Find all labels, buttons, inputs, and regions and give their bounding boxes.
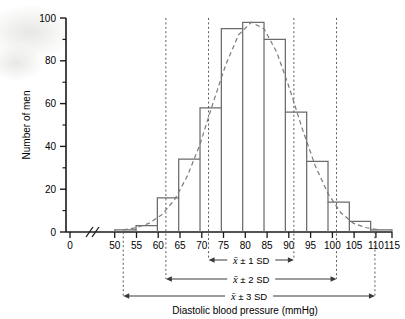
- sd3-arrowhead-left: [123, 293, 129, 299]
- sd3-arrowhead-right: [369, 293, 375, 299]
- sd1-arrowhead-left: [209, 257, 215, 263]
- y-tick-label-0: 0: [50, 227, 56, 238]
- x-tick-label-110: 110: [368, 240, 384, 251]
- x-tick-label-105: 105: [346, 240, 363, 251]
- y-tick-label-60: 60: [45, 98, 57, 109]
- sd-bracket-2: x̄ ± 2 SD: [166, 272, 337, 286]
- sd1-label-text: ± 1 SD: [238, 255, 270, 266]
- sd2-arrowhead-right: [331, 276, 337, 282]
- x-tick-label-100: 100: [324, 240, 341, 251]
- y-axis: 100 80 60 40 20 0 Number of men: [21, 13, 66, 238]
- x-tick-label-55: 55: [131, 240, 143, 251]
- y-tick-label-20: 20: [45, 184, 57, 195]
- x-tick-label-70: 70: [196, 240, 208, 251]
- chart-canvas: 100 80 60 40 20 0 Number of men: [0, 0, 405, 319]
- sd2-label-text: ± 2 SD: [238, 274, 270, 285]
- bar-outline: [115, 22, 392, 232]
- x-tick-label-65: 65: [174, 240, 186, 251]
- x-axis-title: Diastolic blood pressure (mmHg): [172, 305, 318, 316]
- sd1-label: x̄ ± 1 SD: [232, 255, 269, 266]
- sd-bracket-1: x̄ ± 1 SD: [209, 253, 294, 267]
- sd2-arrowhead-left: [166, 276, 172, 282]
- y-tick-label-100: 100: [39, 13, 56, 24]
- sd1-arrowhead-right: [288, 257, 294, 263]
- fitted-normal-curve: [123, 22, 379, 230]
- histogram-figure: 100 80 60 40 20 0 Number of men: [0, 0, 405, 319]
- x-tick-label-95: 95: [305, 240, 317, 251]
- x-tick-label-115: 115: [384, 240, 400, 251]
- sd3-label: x̄ ± 3 SD: [230, 291, 267, 302]
- sd3-label-text: ± 3 SD: [236, 291, 268, 302]
- x-tick-label-75: 75: [218, 240, 230, 251]
- x-tick-label-85: 85: [262, 240, 274, 251]
- histogram-bars: [115, 22, 392, 232]
- x-tick-label-0: 0: [67, 240, 73, 251]
- x-tick-label-50: 50: [109, 240, 121, 251]
- y-tick-label-40: 40: [45, 141, 57, 152]
- y-axis-title: Number of men: [21, 91, 32, 160]
- x-tick-label-60: 60: [153, 240, 165, 251]
- y-tick-label-80: 80: [45, 55, 57, 66]
- x-tick-label-90: 90: [283, 240, 295, 251]
- x-tick-label-80: 80: [240, 240, 252, 251]
- x-axis: 0 50 55 60 65 70 75 80 85 90 95 100 105 …: [66, 227, 400, 251]
- sd2-label: x̄ ± 2 SD: [232, 274, 269, 285]
- sd-bracket-3: x̄ ± 3 SD: [123, 289, 375, 303]
